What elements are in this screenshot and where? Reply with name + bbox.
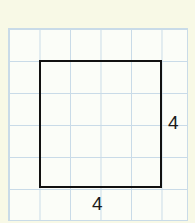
side-length-label-right: 4 [168,112,179,134]
side-length-label-bottom: 4 [92,193,103,215]
square-shape [39,60,162,188]
